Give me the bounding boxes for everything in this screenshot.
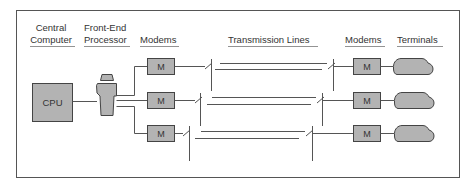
header-central-computer-line1: Central (36, 22, 67, 33)
fep-modem-links (117, 67, 148, 134)
modem-label: M (157, 96, 165, 106)
cpu-label: CPU (42, 97, 62, 108)
right-modem-middle: M (354, 93, 381, 109)
left-modem-middle: M (148, 93, 175, 109)
header-terminals: Terminals (397, 34, 438, 45)
transmission-line-top (175, 59, 354, 91)
modem-terminal-links (381, 67, 395, 134)
header-modems-left: Modems (140, 34, 177, 45)
modem-label: M (363, 62, 371, 72)
header-front-end-processor-line2: Processor (84, 34, 127, 45)
left-modem-bottom: M (148, 126, 175, 142)
right-modem-bottom: M (354, 126, 381, 142)
modem-label: M (363, 129, 371, 139)
header-front-end-processor-line1: Front-End (84, 22, 126, 33)
left-modem-top: M (148, 59, 175, 75)
header-transmission-lines: Transmission Lines (228, 34, 310, 45)
terminal-icon (394, 59, 434, 75)
modem-label: M (157, 129, 165, 139)
modem-label: M (157, 62, 165, 72)
transmission-line-bottom (175, 126, 354, 161)
transmission-line-middle (175, 93, 354, 126)
network-diagram: Central Computer Front-End Processor Mod… (0, 0, 475, 185)
right-modem-top: M (354, 59, 381, 75)
column-headers: Central Computer Front-End Processor Mod… (30, 22, 443, 47)
terminal-icon (395, 93, 435, 109)
modem-label: M (363, 96, 371, 106)
terminal-icon (395, 126, 435, 142)
header-central-computer-line2: Computer (30, 34, 72, 45)
front-end-processor-icon (97, 75, 117, 116)
header-modems-right: Modems (345, 34, 382, 45)
cpu-box: CPU (33, 84, 73, 122)
